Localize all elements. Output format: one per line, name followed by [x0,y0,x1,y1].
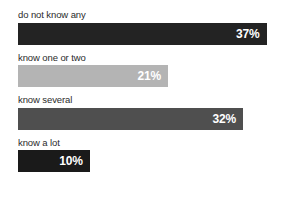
bar-fill: 10% [18,150,90,172]
bar-value-label: 10% [59,155,82,167]
horizontal-bar-chart: do not know any 37% know one or two 21% … [0,0,302,203]
bar-fill: 32% [18,108,243,130]
bar-fill: 37% [18,23,267,45]
bar-category-label: know several [18,94,292,105]
bar-group: do not know any 37% [18,9,292,45]
bar-value-label: 32% [213,113,236,125]
bar-spacer [18,87,292,94]
bar-track: 21% [18,65,292,87]
bar-spacer [18,130,292,137]
bar-group: know a lot 10% [18,137,292,173]
bar-value-label: 37% [236,28,259,40]
bar-category-label: know one or two [18,52,292,63]
bar-track: 37% [18,23,292,45]
bar-category-label: do not know any [18,9,292,20]
bar-spacer [18,45,292,52]
bar-track: 32% [18,108,292,130]
bar-group: know one or two 21% [18,52,292,88]
bar-fill: 21% [18,65,168,87]
bar-category-label: know a lot [18,137,292,148]
bar-track: 10% [18,150,292,172]
bar-value-label: 21% [137,70,160,82]
bar-group: know several 32% [18,94,292,130]
